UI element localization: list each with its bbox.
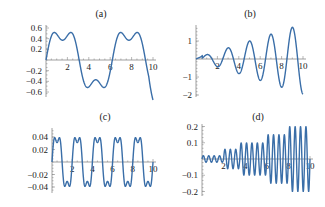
y-tick-label: 0.6 bbox=[31, 23, 43, 33]
y-tick-label: 0.1 bbox=[187, 138, 198, 148]
x-tick-label: 8 bbox=[129, 62, 134, 72]
x-tick-label: 4 bbox=[87, 62, 92, 72]
panel-a-title: (a) bbox=[95, 8, 106, 20]
x-tick-label: 4 bbox=[237, 61, 242, 71]
y-tick-label: −0.04 bbox=[27, 182, 48, 192]
y-tick-label: −0.02 bbox=[27, 170, 48, 180]
y-tick-label: −1 bbox=[182, 72, 192, 82]
y-tick-label: −0.6 bbox=[26, 87, 43, 97]
y-tick-label: −0.2 bbox=[26, 66, 42, 76]
panel-c: (c) 2468100.040.02−0.02−0.04 bbox=[27, 111, 158, 193]
panel-d-curve bbox=[202, 127, 310, 192]
x-tick-label: 10 bbox=[149, 62, 159, 72]
y-tick-label: −0.1 bbox=[182, 170, 198, 180]
y-tick-label: 1 bbox=[188, 36, 193, 46]
x-tick-label: 8 bbox=[279, 61, 284, 71]
x-tick-label: 6 bbox=[258, 61, 263, 71]
panel-a: (a) 2468100.60.40.2−0.2−0.4−0.6 bbox=[26, 8, 158, 100]
panel-c-title: (c) bbox=[99, 111, 110, 123]
y-tick-label: −0.4 bbox=[26, 76, 43, 86]
y-tick-label: 0.4 bbox=[31, 34, 43, 44]
y-tick-label: 0.04 bbox=[32, 132, 48, 142]
panel-b-title: (b) bbox=[244, 8, 256, 20]
x-tick-label: 10 bbox=[299, 61, 309, 71]
x-tick-label: 2 bbox=[65, 62, 70, 72]
figure: (a) 2468100.60.40.2−0.2−0.4−0.6 (b) 2468… bbox=[0, 0, 325, 207]
y-tick-label: 0.2 bbox=[31, 44, 42, 54]
panel-d-title: (d) bbox=[252, 111, 264, 123]
panel-b-curve bbox=[196, 27, 303, 94]
y-tick-label: −2 bbox=[182, 90, 192, 100]
y-tick-label: 0.02 bbox=[32, 145, 48, 155]
panel-b: (b) 2468101−1−2 bbox=[182, 8, 308, 100]
y-tick-label: 0.2 bbox=[187, 122, 198, 132]
panel-a-curve bbox=[46, 32, 153, 100]
panel-d: (d) 2468100.20.1−0.1−0.2 bbox=[182, 111, 315, 197]
y-tick-label: −0.2 bbox=[182, 187, 198, 197]
panel-a-axes: 2468100.60.40.2−0.2−0.4−0.6 bbox=[26, 23, 158, 97]
